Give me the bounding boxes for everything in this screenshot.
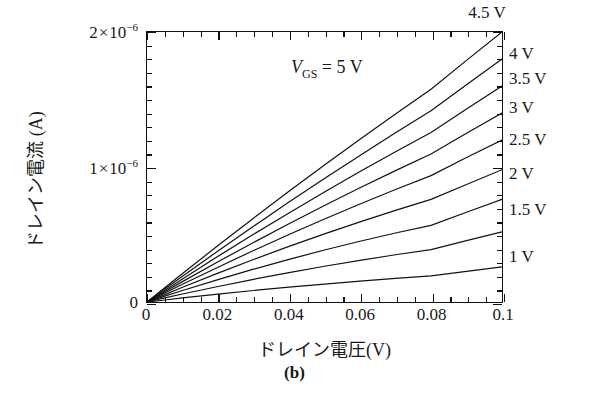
y-tick-exponent: −6 [126, 157, 138, 169]
x-tick-top [236, 32, 237, 37]
x-tick-top [183, 32, 184, 37]
y-tick [147, 100, 152, 101]
x-tick-top [326, 32, 327, 37]
panel-caption: (b) [0, 363, 589, 383]
x-tick [379, 297, 380, 302]
x-tick [504, 294, 505, 302]
curve-vgs-15v [147, 232, 502, 302]
y-tick-right [497, 290, 502, 291]
y-tick-right [497, 277, 502, 278]
y-tick-right [497, 141, 502, 142]
x-tick [415, 297, 416, 302]
y-tick-right [497, 182, 502, 183]
x-tick [361, 294, 362, 302]
x-tick [486, 297, 487, 302]
y-tick [147, 209, 152, 210]
x-tick [308, 297, 309, 302]
curve-end-label: 4 V [509, 45, 534, 62]
y-tick-right [497, 222, 502, 223]
y-tick-right [497, 236, 502, 237]
x-tick-top [486, 32, 487, 37]
curve-vgs-4v [147, 86, 502, 302]
x-tick [183, 297, 184, 302]
y-axis-title: ドレイン電流 (A) [21, 60, 47, 300]
x-tick-top [379, 32, 380, 37]
x-tick-top [433, 32, 434, 40]
x-tick [254, 297, 255, 302]
y-tick-mantissa: 2 [89, 23, 98, 42]
x-tick-top [450, 32, 451, 37]
multiply-glyph: × [98, 23, 110, 42]
y-tick [147, 290, 152, 291]
y-tick [147, 222, 152, 223]
y-tick-base: 10 [109, 23, 126, 42]
x-tick-top [290, 32, 291, 40]
x-tick-top [165, 32, 166, 37]
y-tick-right [493, 32, 502, 33]
y-tick [147, 168, 156, 169]
x-tick [201, 297, 202, 302]
y-tick-right [497, 250, 502, 251]
x-tick-label: 0.02 [203, 306, 233, 323]
x-tick-top [343, 32, 344, 37]
x-tick-top [415, 32, 416, 37]
curve-end-label: 4.5 V [468, 4, 505, 21]
x-tick-label: 0 [142, 306, 151, 323]
curve-end-label: 2.5 V [509, 131, 546, 148]
x-tick-top [308, 32, 309, 37]
y-tick-right [497, 86, 502, 87]
y-tick [147, 263, 152, 264]
x-tick [450, 297, 451, 302]
y-tick-right [497, 46, 502, 47]
y-tick-right [497, 114, 502, 115]
y-tick [147, 59, 152, 60]
x-tick-top [147, 32, 148, 40]
x-tick [290, 294, 291, 302]
y-tick [147, 277, 152, 278]
x-tick [165, 297, 166, 302]
x-tick-top [504, 32, 505, 40]
y-tick [147, 86, 152, 87]
curve-vgs-45v [147, 59, 502, 302]
y-tick-right [497, 100, 502, 101]
x-tick-top [218, 32, 219, 40]
x-tick [236, 297, 237, 302]
figure-panel-b: 01×10−62×10−6 00.020.040.060.080.1 4.5 V… [0, 0, 589, 397]
y-tick [147, 182, 152, 183]
y-tick [147, 73, 152, 74]
x-tick-label: 0.06 [345, 306, 375, 323]
x-tick [218, 294, 219, 302]
x-tick [147, 294, 148, 302]
y-tick [147, 32, 156, 33]
x-tick-label: 0.08 [417, 306, 447, 323]
curve-vgs-2v [147, 199, 502, 302]
x-tick-top [272, 32, 273, 37]
y-tick [147, 250, 152, 251]
curve-end-label: 2 V [509, 165, 534, 182]
curve-end-label: 1 V [509, 248, 534, 265]
y-tick-base: 10 [109, 159, 126, 178]
y-tick [147, 195, 152, 196]
x-tick-top [468, 32, 469, 37]
x-tick [343, 297, 344, 302]
y-tick-right [497, 127, 502, 128]
y-tick [147, 114, 152, 115]
x-tick-top [201, 32, 202, 37]
multiply-glyph: × [98, 159, 110, 178]
x-tick [272, 297, 273, 302]
x-tick-top [361, 32, 362, 40]
y-tick-right [497, 195, 502, 196]
y-tick-right [497, 154, 502, 155]
x-tick-label: 0.1 [492, 306, 513, 323]
curve-end-label: 3 V [509, 99, 534, 116]
x-tick-label: 0.04 [274, 306, 304, 323]
vgs-equals: = 5 V [317, 57, 362, 77]
vgs-symbol: V [291, 57, 302, 77]
x-tick [433, 294, 434, 302]
y-tick-right [497, 73, 502, 74]
y-tick [147, 236, 152, 237]
vgs-annotation: VGS = 5 V [291, 57, 363, 82]
y-tick-right [497, 263, 502, 264]
y-tick [147, 46, 152, 47]
vgs-subscript: GS [302, 67, 317, 81]
